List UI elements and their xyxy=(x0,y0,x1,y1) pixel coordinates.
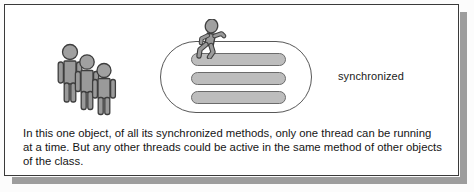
standing-person-icon xyxy=(91,62,117,116)
waiting-threads-group xyxy=(57,35,123,113)
caption-paragraph: In this one object, of all its synchroni… xyxy=(23,126,443,169)
synchronized-method-bar xyxy=(191,91,286,104)
synchronized-method-bar xyxy=(191,72,286,85)
caption-text: In this one object, of all its synchroni… xyxy=(23,126,443,169)
object-stadium xyxy=(160,41,312,113)
running-person-icon xyxy=(188,19,230,59)
frame-shadow-bottom xyxy=(12,177,467,184)
diagram-area: synchronized xyxy=(5,5,460,117)
frame-shadow-right xyxy=(460,12,467,184)
synchronized-label: synchronized xyxy=(338,70,404,82)
figure-frame: synchronized In this one object, of all … xyxy=(4,4,459,176)
